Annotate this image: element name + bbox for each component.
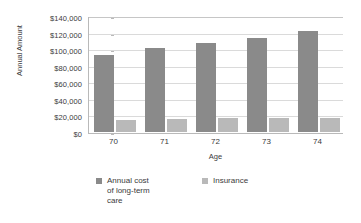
legend-swatch-icon xyxy=(202,178,208,184)
y-axis-tick-label: $0 xyxy=(73,130,82,139)
plot-area xyxy=(88,17,343,134)
y-axis-tick-label: $120,000 xyxy=(50,30,82,39)
bar-group xyxy=(145,16,187,132)
y-axis-tick-label: $80,000 xyxy=(54,63,82,72)
y-axis-tick-label: $100,000 xyxy=(50,47,82,56)
y-axis-tick-label: $60,000 xyxy=(54,80,82,89)
bar-group xyxy=(247,16,289,132)
chart-legend: Annual cost of long-term careInsurance xyxy=(96,176,316,220)
x-axis-tick-label: 73 xyxy=(262,137,271,146)
bar-cost-age-74 xyxy=(298,31,318,132)
bar-cost-age-73 xyxy=(247,38,267,132)
x-axis-tick-label: 74 xyxy=(313,137,322,146)
x-axis-tick-labels: 7071727374 xyxy=(88,137,343,151)
bar-group xyxy=(94,16,136,132)
y-axis-tick-labels: $0$20,000$40,000$60,000$80,000$100,000$1… xyxy=(26,17,86,134)
bar-insurance-age-73 xyxy=(269,118,289,132)
legend-label: Insurance xyxy=(213,176,248,186)
bar-cost-age-72 xyxy=(196,43,216,132)
legend-entry: Annual cost of long-term care xyxy=(96,176,150,206)
x-axis-tick-label: 70 xyxy=(109,137,118,146)
y-axis-tick-mark xyxy=(111,134,114,135)
x-axis-tick-label: 71 xyxy=(160,137,169,146)
legend-entry: Insurance xyxy=(202,176,248,186)
y-axis-tick-label: $20,000 xyxy=(54,113,82,122)
bar-insurance-age-70 xyxy=(116,120,136,132)
x-axis-title: Age xyxy=(88,152,343,161)
y-axis-tick-label: $140,000 xyxy=(50,14,82,23)
bar-cost-age-71 xyxy=(145,48,165,132)
bar-group xyxy=(196,16,238,132)
bar-insurance-age-72 xyxy=(218,118,238,132)
y-axis-title: Annual Amount xyxy=(15,6,24,96)
bar-cost-age-70 xyxy=(94,55,114,132)
legend-label: Annual cost of long-term care xyxy=(107,176,150,206)
bar-group xyxy=(298,16,340,132)
y-axis-tick-label: $40,000 xyxy=(54,96,82,105)
bar-chart-figure: Annual Amount $0$20,000$40,000$60,000$80… xyxy=(0,0,361,223)
x-axis-tick-label: 72 xyxy=(211,137,220,146)
bar-insurance-age-71 xyxy=(167,119,187,132)
bar-insurance-age-74 xyxy=(320,118,340,133)
legend-swatch-icon xyxy=(96,178,102,184)
